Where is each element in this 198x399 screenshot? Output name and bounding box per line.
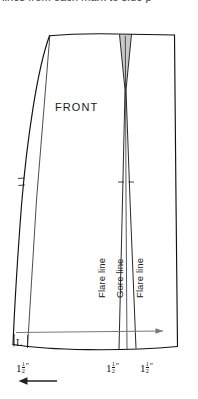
- gore-line-left: [119, 35, 125, 350]
- flare-line-left: [28, 36, 50, 347]
- skirt-pattern-diagram: [0, 0, 198, 399]
- side-seam-left-edge: [13, 36, 50, 345]
- hem-measure-left: 112″: [16, 361, 29, 375]
- hem-measure-center-fraction: 12: [112, 361, 115, 375]
- direction-arrow: [19, 377, 58, 384]
- guide-line-stroke: [16, 331, 163, 333]
- gore-line-right: [126, 34, 136, 348]
- direction-arrow-head: [19, 377, 28, 384]
- center-front-edge: [175, 35, 178, 347]
- label-flare-line-right: Flare line: [134, 258, 145, 298]
- hem-measure-left-whole: 1: [16, 362, 22, 374]
- hem-measure-right-unit: ″: [150, 362, 153, 371]
- hem-measure-right: 112″: [140, 361, 153, 375]
- hem-measure-left-unit: ″: [26, 362, 29, 371]
- label-gore-line: Gore line: [114, 259, 125, 298]
- notch-left-lower: [18, 185, 25, 186]
- hem-measure-center-unit: ″: [116, 362, 119, 371]
- notch-marks: [18, 178, 134, 186]
- hemline-edge: [13, 345, 178, 350]
- waistline-edge: [50, 34, 175, 36]
- guide-line-arrowhead: [156, 328, 164, 333]
- hem-measure-center: 112″: [106, 361, 119, 375]
- corner-marker-label: L: [16, 337, 22, 348]
- hem-measure-center-whole: 1: [106, 362, 112, 374]
- notch-left-upper: [18, 178, 25, 179]
- panel-label-front: FRONT: [55, 101, 98, 113]
- hem-measure-left-fraction: 12: [22, 361, 25, 375]
- hip-guide-line: [16, 328, 163, 333]
- hem-measure-right-whole: 1: [140, 362, 146, 374]
- hem-measure-right-fraction: 12: [146, 361, 149, 375]
- label-flare-line-left: Flare line: [96, 258, 107, 298]
